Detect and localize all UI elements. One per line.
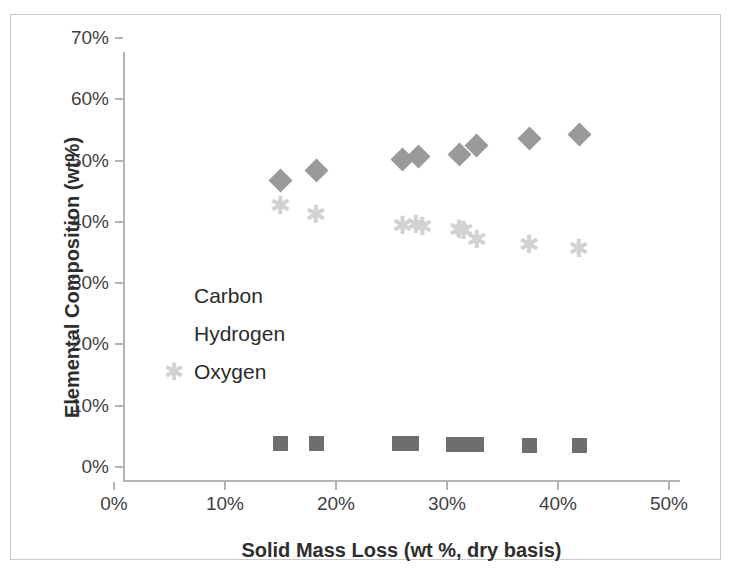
data-point-carbon: [304, 158, 328, 182]
x-tick-mark: [446, 482, 448, 490]
data-point-carbon: [406, 145, 430, 169]
x-tick-label: 10%: [190, 494, 260, 513]
data-point-oxygen: ✱: [392, 215, 414, 237]
data-point-hydrogen: [522, 438, 537, 453]
legend-item-hydrogen: Hydrogen: [163, 315, 353, 353]
x-tick-mark: [113, 482, 115, 490]
data-point-hydrogen: [454, 437, 469, 452]
data-point-oxygen: ✱: [448, 219, 470, 241]
figure-frame: 0%10%20%30%40%50%60%70% 0%10%20%30%40%50…: [10, 14, 721, 560]
y-tick-mark: [115, 221, 123, 223]
chart-legend: Carbon Hydrogen ✱ Oxygen: [163, 277, 353, 391]
data-point-hydrogen: [572, 438, 587, 453]
x-tick-mark: [557, 482, 559, 490]
data-point-oxygen: ✱: [405, 214, 427, 236]
data-point-oxygen: ✱: [412, 216, 434, 238]
y-tick-mark: [115, 160, 123, 162]
x-tick-label: 30%: [412, 494, 482, 513]
x-tick-label: 20%: [301, 494, 371, 513]
y-tick-label: 70%: [49, 28, 109, 47]
legend-label-hydrogen: Hydrogen: [194, 322, 285, 346]
legend-item-oxygen: ✱ Oxygen: [163, 353, 353, 391]
data-point-carbon: [465, 134, 489, 158]
y-tick-mark: [115, 282, 123, 284]
data-point-oxygen: ✱: [270, 195, 292, 217]
data-point-hydrogen: [446, 437, 461, 452]
data-point-oxygen: ✱: [453, 220, 475, 242]
legend-label-carbon: Carbon: [194, 284, 263, 308]
y-tick-mark: [115, 405, 123, 407]
diamond-marker-icon: [163, 285, 185, 307]
data-point-carbon: [517, 126, 541, 150]
x-tick-mark: [335, 482, 337, 490]
data-point-hydrogen: [273, 436, 288, 451]
data-point-carbon: [391, 147, 415, 171]
chart-screenshot: 0%10%20%30%40%50%60%70% 0%10%20%30%40%50…: [0, 0, 742, 579]
y-tick-mark: [115, 343, 123, 345]
asterisk-marker-icon: ✱: [163, 361, 185, 383]
x-tick-label: 40%: [523, 494, 593, 513]
y-tick-mark: [115, 37, 123, 39]
data-point-hydrogen: [469, 437, 484, 452]
data-point-carbon: [567, 123, 591, 147]
data-point-oxygen: ✱: [518, 234, 540, 256]
data-point-hydrogen: [404, 436, 419, 451]
y-axis-title: Elemental Composition (wt%): [61, 78, 84, 478]
y-tick-mark: [115, 466, 123, 468]
data-point-oxygen: ✱: [466, 229, 488, 251]
data-point-carbon: [447, 142, 471, 166]
data-point-hydrogen: [309, 436, 324, 451]
y-tick-label-wrap: 70%: [49, 28, 111, 47]
y-tick-mark: [115, 98, 123, 100]
plot-area: ✱✱✱✱✱✱✱✱✱✱: [124, 52, 679, 481]
legend-label-oxygen: Oxygen: [194, 360, 266, 384]
x-tick-label: 0%: [79, 494, 149, 513]
x-tick-mark: [668, 482, 670, 490]
data-point-oxygen: ✱: [305, 204, 327, 226]
square-marker-icon: [163, 323, 185, 345]
data-point-oxygen: ✱: [568, 238, 590, 260]
data-point-hydrogen: [392, 436, 407, 451]
legend-item-carbon: Carbon: [163, 277, 353, 315]
data-point-carbon: [268, 168, 292, 192]
x-tick-label: 50%: [634, 494, 704, 513]
x-tick-mark: [224, 482, 226, 490]
x-axis-title: Solid Mass Loss (wt %, dry basis): [124, 539, 679, 562]
